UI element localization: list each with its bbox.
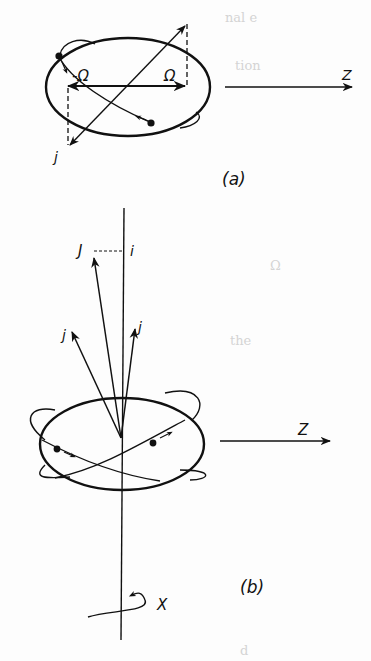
neg-omega-label: -Ω — [72, 67, 89, 85]
J-vector — [94, 258, 121, 438]
panel-a: -Ω Ω Z j (a) — [46, 24, 352, 189]
electron-dot — [54, 446, 61, 453]
electron-dot — [147, 119, 154, 126]
svg-text:the: the — [230, 333, 252, 348]
omega-label: Ω — [163, 67, 176, 85]
j-label: j — [52, 149, 58, 165]
electron-dot — [55, 52, 62, 59]
orbit-loop-left — [31, 409, 55, 440]
z-label: Z — [297, 421, 309, 439]
electron-dot — [150, 440, 157, 447]
i-label: i — [130, 243, 134, 259]
svg-text:Ω: Ω — [270, 258, 281, 273]
svg-text:d: d — [240, 643, 248, 658]
J-label: J — [75, 242, 82, 260]
z-label: Z — [341, 67, 352, 83]
svg-text:tion: tion — [235, 58, 261, 73]
j-right-label: j — [136, 319, 142, 335]
bleed-through-text: nal e tion Ω the d — [225, 10, 281, 658]
x-label: X — [156, 596, 168, 614]
caption-a: (a) — [222, 169, 246, 189]
orbit-ellipse — [46, 38, 210, 136]
svg-text:nal e: nal e — [225, 10, 257, 25]
panel-b: J i j j Z X (b) — [31, 208, 330, 640]
caption-b: (b) — [240, 577, 264, 597]
diagram-canvas: nal e tion Ω the d -Ω Ω Z j (a) — [0, 0, 371, 661]
rotation-arrow — [88, 593, 145, 617]
electron-path — [58, 55, 150, 122]
j-left-label: j — [60, 327, 66, 343]
